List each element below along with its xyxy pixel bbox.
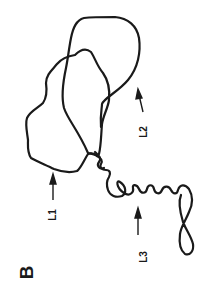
arrow-l3-icon — [135, 208, 141, 235]
dna-loop-diagram — [0, 0, 209, 294]
panel-label: B — [17, 266, 36, 280]
label-l3: L3 — [139, 251, 149, 263]
arrow-l1-icon — [50, 174, 56, 200]
supercoil-l3 — [97, 156, 193, 254]
arrow-l2-icon — [136, 89, 143, 112]
label-l2: L2 — [139, 126, 149, 138]
label-l1: L1 — [48, 209, 58, 221]
